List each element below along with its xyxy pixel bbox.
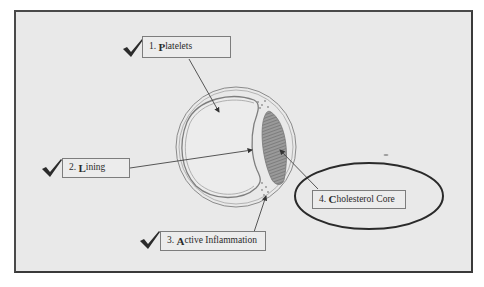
label-text: ining <box>86 163 106 173</box>
checkmark-icon <box>41 158 63 178</box>
arrow-active-inflammation <box>254 196 266 232</box>
artery-lumen <box>182 97 260 198</box>
label-text: ctive Inflammation <box>184 236 257 246</box>
label-text: holesterol Core <box>336 195 394 205</box>
label-initial: C <box>329 194 337 205</box>
label-number: 2. <box>69 163 76 173</box>
label-active-inflammation: 3. Active Inflammation <box>160 231 266 251</box>
checkmark-icon <box>139 230 161 250</box>
label-text: latelets <box>165 42 192 52</box>
label-initial: P <box>159 42 166 53</box>
label-initial: L <box>79 163 86 174</box>
cholesterol-core-shape <box>262 111 286 184</box>
smudge-mark <box>384 154 389 156</box>
label-lining: 2. Lining <box>62 158 130 178</box>
label-initial: A <box>177 236 185 247</box>
label-number: 4. <box>319 195 326 205</box>
label-platelets: 1. Platelets <box>142 36 231 58</box>
checkmark-icon <box>122 38 144 58</box>
label-number: 3. <box>167 236 174 246</box>
label-cholesterol-core: 4. Cholesterol Core <box>312 190 406 209</box>
label-number: 1. <box>149 42 156 52</box>
